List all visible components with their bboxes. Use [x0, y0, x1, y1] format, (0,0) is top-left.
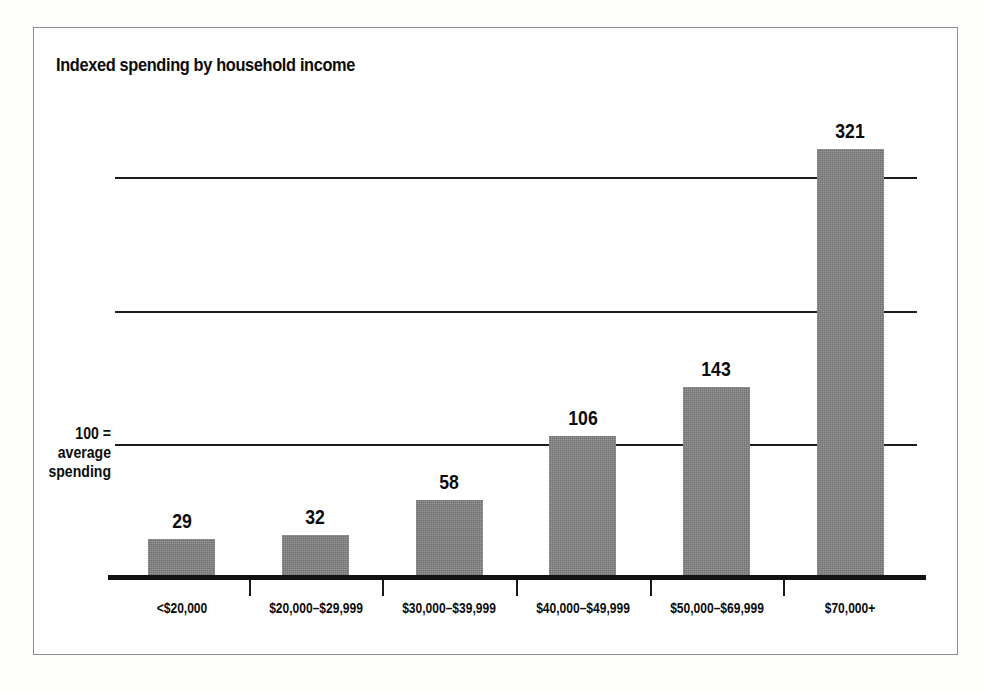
chart-page: Indexed spending by household income 100…	[0, 0, 985, 693]
x-axis-tick	[650, 580, 652, 596]
y-axis-annotation-line-1: 100 =	[13, 424, 111, 443]
bar[interactable]	[148, 539, 215, 578]
x-axis-tick	[783, 580, 785, 596]
bar-value-label: 143	[666, 357, 767, 381]
x-axis-label: $30,000–$39,999	[372, 600, 527, 616]
bar[interactable]	[282, 535, 349, 578]
x-axis-tick	[516, 580, 518, 596]
bar-group: 29	[115, 110, 249, 578]
bar-value-label: 58	[399, 470, 500, 494]
y-axis-annotation-line-3: spending	[13, 462, 111, 481]
bar[interactable]	[683, 387, 750, 578]
bar[interactable]	[817, 149, 884, 578]
bar-group: 106	[516, 110, 650, 578]
y-axis-annotation-line-2: average	[13, 443, 111, 462]
bar-value-label: 321	[800, 119, 901, 143]
bar-group: 32	[249, 110, 383, 578]
bar-value-label: 29	[131, 509, 232, 533]
bar[interactable]	[416, 500, 483, 578]
x-axis-label: $50,000–$69,999	[639, 600, 794, 616]
x-axis-label: <$20,000	[104, 600, 259, 616]
bar-value-label: 106	[532, 406, 633, 430]
bars: 293258106143321	[115, 110, 917, 578]
y-axis-annotation: 100 = average spending	[13, 424, 111, 481]
bar-group: 143	[650, 110, 784, 578]
x-axis-label: $40,000–$49,999	[505, 600, 660, 616]
bar-group: 321	[783, 110, 917, 578]
bar-value-label: 32	[265, 505, 366, 529]
bar[interactable]	[549, 436, 616, 578]
plot-area: 293258106143321	[115, 110, 917, 578]
chart-title: Indexed spending by household income	[56, 54, 355, 76]
x-axis-tick	[249, 580, 251, 596]
x-axis-label: $20,000–$29,999	[238, 600, 393, 616]
x-axis-tick	[382, 580, 384, 596]
bar-group: 58	[382, 110, 516, 578]
x-axis-label: $70,000+	[773, 600, 928, 616]
